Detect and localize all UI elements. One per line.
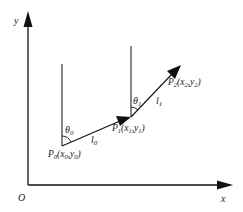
link-label-l0: l0	[91, 134, 98, 147]
kinematic-diagram: y x O θ0 θ1 l0 l1 P0(x0,y0) P1(x1,y1) P2…	[0, 0, 243, 212]
point-label-p2: P2(x2,y2)	[167, 77, 201, 88]
x-axis-label: x	[220, 193, 226, 204]
origin-label: O	[18, 192, 25, 203]
angle-label-theta1: θ1	[133, 95, 141, 108]
x-axis: x	[28, 181, 233, 205]
y-axis: y	[13, 11, 33, 185]
point-label-p0: P0(x0,y0)	[47, 149, 81, 160]
angle-label-theta0: θ0	[65, 124, 74, 137]
link-l1	[131, 65, 181, 117]
x-axis-arrowhead-icon	[217, 181, 233, 190]
y-axis-label: y	[13, 15, 19, 26]
link-label-l1: l1	[156, 95, 162, 108]
point-label-p1: P1(x1,y1)	[111, 123, 145, 134]
y-axis-arrowhead-icon	[24, 11, 33, 27]
